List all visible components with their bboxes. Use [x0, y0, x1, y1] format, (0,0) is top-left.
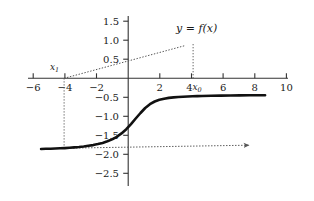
y-tick-label-0.5: 0.5	[103, 54, 119, 65]
y-tick-label-1.0: 1.0	[103, 35, 119, 46]
x-tick-label-10: 10	[280, 82, 293, 93]
x-axis-ticks	[33, 73, 286, 78]
y-tick-label-1.5: 1.5	[103, 16, 119, 27]
x-tick-label-8: 8	[252, 82, 258, 93]
y-tick-label--1.0: −1.0	[95, 111, 119, 122]
x0-annotation-label: x0	[193, 82, 202, 94]
x-tick-label-2: 2	[157, 82, 163, 93]
y-tick-label--0.5: −0.5	[95, 92, 119, 103]
y-tick-label--2.5: −2.5	[95, 168, 119, 179]
function-curve	[41, 95, 265, 149]
x-tick-label--6: −6	[26, 82, 41, 93]
y-tick-label--2.0: −2.0	[95, 149, 119, 160]
upper-dotted-tangent-line	[64, 46, 184, 79]
x1-annotation-label: x1	[50, 62, 59, 74]
plot-canvas: −6 −4 −2 2 4 6 8 10 1.5 1.0 0.5 −0.5 −1.…	[0, 0, 314, 201]
function-graph-figure: −6 −4 −2 2 4 6 8 10 1.5 1.0 0.5 −0.5 −1.…	[0, 0, 314, 201]
curve-equation-label: y = f(x)	[175, 22, 217, 35]
x-tick-label-6: 6	[220, 82, 226, 93]
x-tick-label--4: −4	[58, 82, 73, 93]
y-tick-label--1.5: −1.5	[95, 130, 119, 141]
y-axis-ticks	[123, 21, 128, 173]
